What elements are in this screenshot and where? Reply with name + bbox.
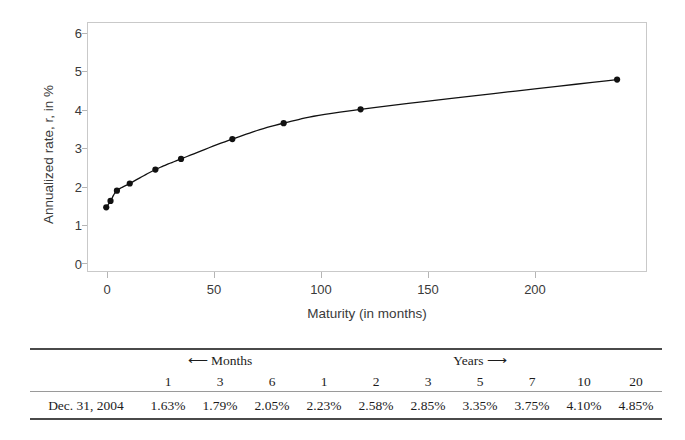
table-cell: 2.23% <box>298 393 350 418</box>
table-cell: 3.35% <box>454 393 506 418</box>
y-tick-mark <box>82 263 87 264</box>
table-cell: 2.05% <box>246 393 298 418</box>
table-row: Dec. 31, 2004 1.63% 1.79% 2.05% 2.23% 2.… <box>30 393 662 418</box>
group-header-years: Years ⟶ <box>298 350 662 371</box>
data-point <box>114 188 120 194</box>
x-tick-label: 200 <box>515 283 555 296</box>
x-tick-label: 0 <box>87 283 127 296</box>
y-axis-title: Annualized rate, r, in % <box>41 30 56 280</box>
table-column-header: 5 <box>454 371 506 393</box>
y-tick-mark <box>82 110 87 111</box>
table-cell: 1.79% <box>194 393 246 418</box>
group-header-months: ⟵ Months <box>142 350 298 371</box>
x-tick-mark <box>107 272 108 278</box>
table-column-header: 1 <box>142 371 194 393</box>
table-cell: 2.85% <box>402 393 454 418</box>
data-point <box>357 106 363 112</box>
table-column-header: 7 <box>506 371 558 393</box>
table-header-blank <box>30 371 142 393</box>
curve-line <box>106 80 617 208</box>
table-row-label: Dec. 31, 2004 <box>30 393 142 418</box>
x-tick-mark <box>214 272 215 278</box>
table-cell: 2.58% <box>350 393 402 418</box>
table-column-header: 20 <box>610 371 662 393</box>
x-tick-label: 100 <box>301 283 341 296</box>
yield-curve-chart: 6 5 4 3 2 1 0 0 50 100 150 200 Maturity … <box>0 0 685 340</box>
y-tick-mark <box>82 187 87 188</box>
data-point <box>152 167 158 173</box>
table-column-header: 3 <box>194 371 246 393</box>
y-tick-label: 4 <box>66 104 82 117</box>
x-tick-mark <box>321 272 322 278</box>
table-column-header: 1 <box>298 371 350 393</box>
y-tick-label: 1 <box>66 219 82 232</box>
table-column-header: 10 <box>558 371 610 393</box>
y-axis-ticks: 6 5 4 3 2 1 0 <box>62 0 82 340</box>
table-column-header-row: 1 3 6 1 2 3 5 7 10 20 <box>30 371 662 393</box>
table-column-header: 2 <box>350 371 402 393</box>
table-cell: 4.10% <box>558 393 610 418</box>
data-point <box>178 156 184 162</box>
x-axis-title: Maturity (in months) <box>87 306 647 321</box>
x-tick-mark <box>428 272 429 278</box>
table-cell: 1.63% <box>142 393 194 418</box>
table-column-header: 3 <box>402 371 454 393</box>
table-column-header: 6 <box>246 371 298 393</box>
x-tick-mark <box>535 272 536 278</box>
curve-markers <box>103 76 620 210</box>
y-tick-label: 2 <box>66 181 82 194</box>
y-tick-label: 6 <box>66 27 82 40</box>
x-tick-label: 50 <box>194 283 234 296</box>
plot-data-layer <box>87 22 647 272</box>
y-tick-mark <box>82 33 87 34</box>
table-cell: 3.75% <box>506 393 558 418</box>
data-point <box>281 120 287 126</box>
y-tick-mark <box>82 148 87 149</box>
y-tick-mark <box>82 71 87 72</box>
y-tick-mark <box>82 225 87 226</box>
data-point <box>229 136 235 142</box>
table-rule-bottom <box>30 418 662 420</box>
data-point <box>614 76 620 82</box>
rates-table: ⟵ Months Years ⟶ 1 3 6 1 2 3 5 7 10 20 <box>30 350 662 418</box>
data-point <box>107 198 113 204</box>
y-tick-label: 3 <box>66 142 82 155</box>
y-tick-label: 5 <box>66 65 82 78</box>
x-tick-label: 150 <box>408 283 448 296</box>
table-corner-cell <box>30 350 142 371</box>
y-tick-label: 0 <box>66 258 82 271</box>
data-point <box>103 204 109 210</box>
table-group-header-row: ⟵ Months Years ⟶ <box>30 350 662 371</box>
data-point <box>127 180 133 186</box>
table-cell: 4.85% <box>610 393 662 418</box>
